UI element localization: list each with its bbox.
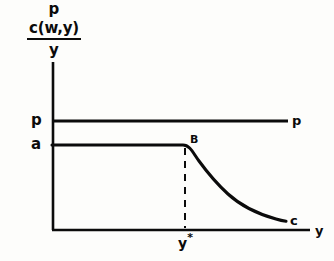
x-tick-label-ystar-star: *	[187, 231, 193, 244]
axis-label-avgcost-a: a	[31, 137, 41, 152]
cost-curve-figure: p c(w,y) y p a p c B y* y	[0, 0, 334, 261]
x-axis-name-label: y	[315, 224, 323, 237]
plot-canvas	[0, 0, 334, 261]
curve-end-label-c: c	[290, 214, 298, 227]
x-tick-label-ystar-base: y	[178, 235, 187, 251]
x-tick-label-ystar: y*	[178, 236, 193, 250]
average-cost-curve	[52, 145, 286, 221]
point-b-label: B	[190, 134, 198, 145]
price-line-end-label-p: p	[292, 114, 301, 127]
axis-label-price-p: p	[31, 113, 42, 128]
